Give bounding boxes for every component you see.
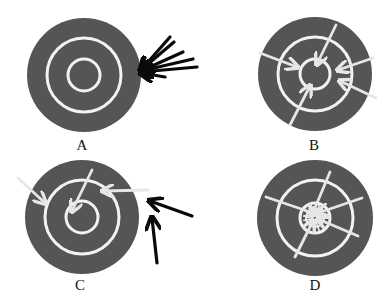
target-a [27,18,141,132]
target-disc [25,160,139,274]
target-label-c: C [75,278,85,293]
arrow-white [103,190,148,191]
target-label-a: A [77,138,88,153]
target-d [257,160,373,276]
target-disc [257,160,373,276]
target-disc [27,18,141,132]
target-c [25,160,139,274]
target-label-d: D [310,278,321,293]
targets-canvas [0,0,390,306]
arrow-black [150,201,192,216]
arrow-black [152,218,157,263]
target-label-b: B [309,138,319,153]
target-b [258,17,372,131]
target-diagram: A B C D [0,0,390,306]
arrow-black [141,73,165,77]
target-disc [258,17,372,131]
